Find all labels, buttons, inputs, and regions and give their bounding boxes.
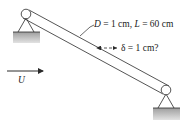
deflection-label: δ = 1 cm? <box>121 43 159 53</box>
pinned-cylinder-diagram: D = 1 cm, L = 60 cm δ = 1 cm? U <box>0 0 191 127</box>
right-pin-support <box>153 94 180 120</box>
left-support-triangle <box>18 18 34 32</box>
left-pin-circle <box>21 9 31 19</box>
dimension-label: D = 1 cm, L = 60 cm <box>93 19 174 29</box>
dimension-leader-line <box>80 25 94 36</box>
flow-velocity-label: U <box>18 75 26 85</box>
right-support-triangle <box>158 94 174 108</box>
left-pin-support <box>13 18 40 43</box>
left-ground-block <box>13 32 40 43</box>
deflection-arrow-right-head <box>113 46 117 50</box>
right-ground-block <box>153 108 180 120</box>
right-pin-circle <box>161 85 171 95</box>
